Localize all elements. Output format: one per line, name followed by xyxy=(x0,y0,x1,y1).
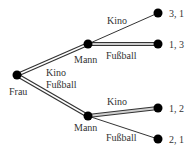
edge-mann2-kino xyxy=(88,108,158,116)
label-root-fussball: Fußball xyxy=(46,79,77,90)
leaf-3-1 xyxy=(154,9,163,18)
label-mann2-kino: Kino xyxy=(107,96,127,107)
payoff-1-3: 1, 3 xyxy=(169,39,184,50)
label-root-kino: Kino xyxy=(46,67,66,78)
game-tree-graphic xyxy=(0,0,195,152)
payoff-1-2: 1, 2 xyxy=(169,103,184,114)
label-mann1-fussball: Fußball xyxy=(106,50,137,61)
leaf-1-2 xyxy=(154,104,163,113)
payoff-3-1: 3, 1 xyxy=(169,8,184,19)
payoff-2-1: 2, 1 xyxy=(169,134,184,145)
label-mann-lower: Mann xyxy=(74,122,97,133)
node-frau xyxy=(13,71,22,80)
node-mann-lower xyxy=(84,112,93,121)
label-frau: Frau xyxy=(9,86,27,97)
leaf-1-3 xyxy=(154,40,163,49)
label-mann1-kino: Kino xyxy=(107,15,127,26)
leaf-2-1 xyxy=(154,135,163,144)
label-mann2-fussball: Fußball xyxy=(106,132,137,143)
node-mann-upper xyxy=(84,40,93,49)
label-mann-upper: Mann xyxy=(74,54,97,65)
